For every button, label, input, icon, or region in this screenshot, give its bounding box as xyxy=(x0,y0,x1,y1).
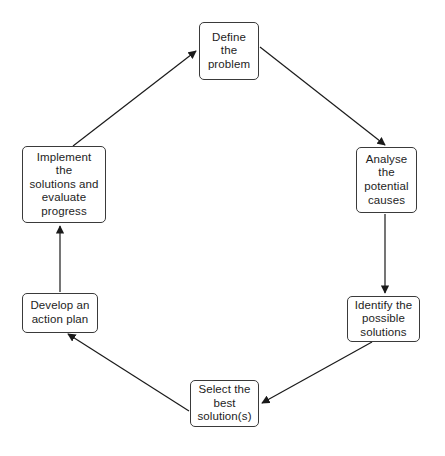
node-define-the-problem[interactable]: Define the problem xyxy=(199,22,259,80)
node-identify-label: Identify the possible solutions xyxy=(351,299,416,340)
node-analyse-the-potential-causes[interactable]: Analyse the potential causes xyxy=(356,147,417,213)
node-select-the-best-solutions[interactable]: Select the best solution(s) xyxy=(190,380,259,427)
node-develop-an-action-plan[interactable]: Develop an action plan xyxy=(22,293,98,333)
node-analyse-label: Analyse the potential causes xyxy=(360,153,412,207)
node-identify-the-possible-solutions[interactable]: Identify the possible solutions xyxy=(347,296,420,342)
edge-identify-to-select xyxy=(262,342,372,403)
node-select-label: Select the best solution(s) xyxy=(193,383,255,424)
node-implement-the-solutions-and-evaluate-progress[interactable]: Implement the solutions and evaluate pro… xyxy=(22,146,106,223)
edge-define-to-analyse xyxy=(260,47,385,145)
node-develop-label: Develop an action plan xyxy=(26,299,93,326)
node-implement-label: Implement the solutions and evaluate pro… xyxy=(25,151,102,219)
edge-implement-to-define xyxy=(73,51,196,146)
node-define-label: Define the problem xyxy=(204,31,254,72)
edge-select-to-develop xyxy=(68,334,189,411)
diagram-canvas: Define the problem Analyse the potential… xyxy=(0,0,445,456)
